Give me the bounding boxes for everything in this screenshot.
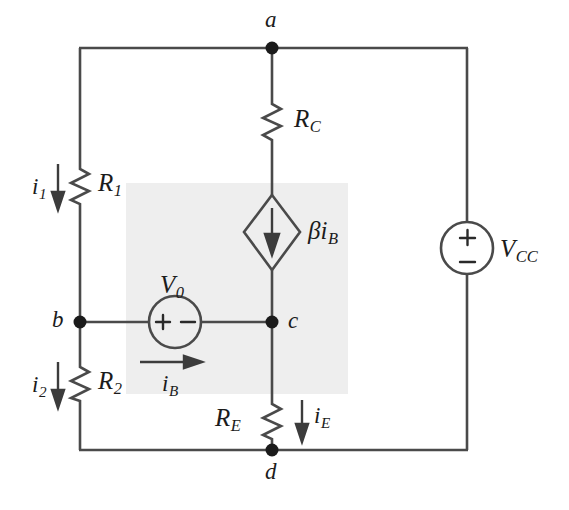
node-dot-c [266,316,279,329]
resistor-rc-symbol [263,100,281,145]
current-label-i2-subscript: 2 [39,383,47,400]
source-label-dependent-base: βi [308,217,327,244]
node-label-c: c [288,309,298,332]
resistor-label-re: RE [215,405,241,435]
resistor-label-r1-base: R [98,169,113,196]
resistor-label-re-subscript: E [231,416,241,435]
source-label-v0: V0 [160,272,184,302]
resistor-r2-symbol [71,363,89,403]
current-label-ie-subscript: E [321,414,330,431]
current-label-ib: iB [162,372,178,398]
source-label-v0-base: V [160,271,175,298]
current-label-ie: iE [314,404,330,430]
current-label-i1-subscript: 1 [39,185,47,202]
resistor-label-r2-subscript: 2 [114,379,122,398]
node-label-a: a [265,8,277,31]
node-dot-b [74,316,87,329]
current-arrow-i2-head [52,390,64,408]
resistor-label-rc-subscript: C [310,117,321,136]
resistor-label-r1-subscript: 1 [114,181,122,200]
resistor-label-r1: R1 [98,170,122,200]
current-label-i1: i1 [32,175,46,201]
source-label-dependent-beta-ib: βiB [308,218,338,248]
source-label-v0-subscript: 0 [176,283,184,302]
source-label-vcc-subscript: CC [516,247,538,266]
resistor-re-symbol [263,400,281,443]
resistor-label-rc: RC [294,106,321,136]
circuit-schematic-canvas [0,0,569,510]
node-dot-a [266,42,279,55]
current-label-i1-base: i [32,174,38,199]
current-arrow-ie-head [296,424,308,442]
resistor-label-re-base: R [215,404,230,431]
current-label-ib-base: i [162,371,168,396]
current-label-i2-base: i [32,372,38,397]
resistor-label-r2-base: R [98,367,113,394]
source-label-vcc-base: V [500,235,515,262]
resistor-label-r2: R2 [98,368,122,398]
node-label-d: d [265,460,277,483]
current-label-i2: i2 [32,373,46,399]
resistor-label-rc-base: R [294,105,309,132]
source-label-dependent-subscript: B [328,229,338,248]
circuit-figure: a b c d RC R1 R2 RE V0 VCC βiB i1 i2 iB … [0,0,569,510]
current-label-ib-subscript: B [169,382,178,399]
current-label-ie-base: i [314,403,320,428]
node-dot-d [266,444,279,457]
node-label-b: b [52,308,64,331]
current-arrow-i1-head [52,192,64,210]
source-label-vcc: VCC [500,236,538,266]
resistor-r1-symbol [71,165,89,208]
